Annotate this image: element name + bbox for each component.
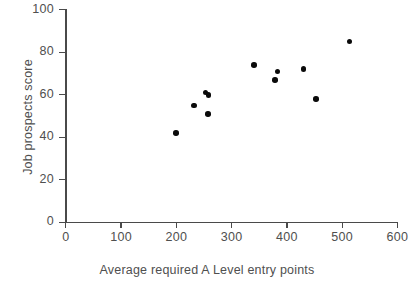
- y-tick-label: 0: [0, 214, 54, 228]
- x-axis-title: Average required A Level entry points: [0, 263, 414, 277]
- y-axis-title: Job prospects score: [21, 27, 35, 207]
- y-tick-mark: [59, 9, 65, 10]
- y-tick-mark: [59, 137, 65, 138]
- data-point: [173, 130, 179, 136]
- data-point: [272, 77, 278, 83]
- data-point: [205, 111, 211, 117]
- x-tick-mark: [120, 222, 121, 228]
- x-tick-label: 400: [267, 230, 307, 244]
- y-tick-mark: [59, 222, 65, 223]
- data-point: [301, 66, 307, 72]
- data-point: [206, 92, 212, 98]
- x-tick-mark: [65, 222, 66, 228]
- x-tick-mark: [286, 222, 287, 228]
- data-point: [313, 96, 319, 102]
- x-tick-label: 300: [212, 230, 252, 244]
- data-point: [191, 103, 197, 109]
- x-tick-mark: [176, 222, 177, 228]
- y-tick-mark: [59, 94, 65, 95]
- scatter-chart: 020406080100 0100200300400500600 Average…: [0, 0, 414, 286]
- y-tick-label: 100: [0, 2, 54, 16]
- x-tick-mark: [397, 222, 398, 228]
- y-tick-mark: [59, 179, 65, 180]
- data-point: [275, 69, 281, 75]
- x-tick-mark: [342, 222, 343, 228]
- data-point: [347, 39, 353, 45]
- y-axis-line: [65, 9, 67, 223]
- x-tick-label: 100: [101, 230, 141, 244]
- x-tick-label: 600: [378, 230, 414, 244]
- x-tick-mark: [231, 222, 232, 228]
- data-point: [251, 62, 257, 68]
- y-tick-mark: [59, 52, 65, 53]
- x-tick-label: 0: [46, 230, 86, 244]
- x-tick-label: 200: [156, 230, 196, 244]
- x-tick-label: 500: [322, 230, 362, 244]
